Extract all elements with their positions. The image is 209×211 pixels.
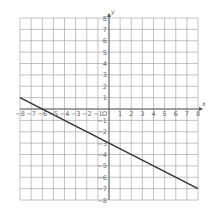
x-tick-label: 8 [196,110,200,118]
y-tick-label: 8 [103,15,107,23]
y-tick-label: −2 [97,128,107,136]
y-tick-label: 7 [103,26,107,34]
x-tick-label: −4 [60,110,70,118]
y-tick-label: −8 [97,197,107,205]
x-tick-label: −7 [26,110,36,118]
plot-area: xy−8−7−6−5−4−3−2−11234567887654321−1−2−3… [0,0,209,211]
x-tick-label: 4 [151,110,155,118]
coordinate-graph: xy−8−7−6−5−4−3−2−11234567887654321−1−2−3… [0,0,209,211]
y-tick-label: 3 [103,71,107,79]
y-tick-label: 6 [103,37,107,45]
y-tick-label: 4 [103,60,107,68]
y-tick-label: −1 [97,117,107,125]
y-tick-label: −7 [97,185,107,193]
x-tick-label: 2 [129,110,133,118]
y-tick-label: 2 [103,83,107,91]
y-tick-label: 5 [103,49,107,57]
y-tick-label: −6 [97,174,107,182]
x-axis-label: x [201,100,206,108]
x-tick-label: 6 [174,110,178,118]
x-tick-label: 7 [185,110,189,118]
y-tick-label: −5 [97,162,107,170]
origin-label: O [102,110,107,118]
x-tick-label: 5 [163,110,167,118]
x-tick-label: −2 [82,110,92,118]
y-axis-label: y [110,8,115,16]
x-tick-label: 1 [118,110,122,118]
y-tick-label: 1 [103,94,107,102]
x-tick-label: −3 [71,110,81,118]
x-tick-label: −8 [15,110,25,118]
y-tick-label: −4 [97,151,107,159]
x-tick-label: 3 [140,110,144,118]
